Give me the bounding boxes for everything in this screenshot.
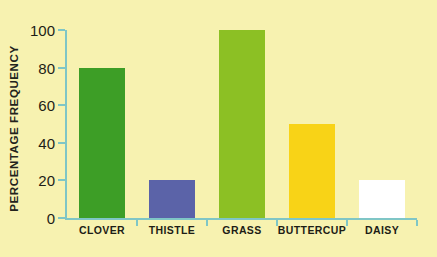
x-axis-label-clover: CLOVER	[79, 224, 125, 236]
y-axis-tick	[58, 29, 65, 31]
y-axis-tick	[58, 179, 65, 181]
y-axis-tick-label: 60	[38, 97, 55, 114]
bars-layer	[67, 30, 417, 218]
bar-daisy	[359, 180, 405, 218]
bar-grass	[219, 30, 265, 218]
x-axis-label-grass: GRASS	[222, 224, 261, 236]
x-axis-label-daisy: DAISY	[365, 224, 399, 236]
y-axis-tick	[58, 217, 65, 219]
y-axis-tick-label: 0	[47, 210, 55, 227]
x-axis-label-buttercup: BUTTERCUP	[278, 224, 346, 236]
y-axis-title: PERCENTAGE FREQUENCY	[0, 0, 28, 257]
x-axis-category-labels: CLOVERTHISTLEGRASSBUTTERCUPDAISY	[67, 224, 417, 242]
y-axis-tick	[58, 104, 65, 106]
y-axis-tick	[58, 67, 65, 69]
y-axis-tick	[58, 142, 65, 144]
bar-buttercup	[289, 124, 335, 218]
x-axis-line	[65, 218, 417, 220]
plot-area: 020406080100	[67, 30, 417, 218]
bar-chart-figure: PERCENTAGE FREQUENCY 020406080100 CLOVER…	[0, 0, 437, 257]
x-axis-label-thistle: THISTLE	[149, 224, 196, 236]
y-axis-tick-label: 80	[38, 59, 55, 76]
bar-clover	[79, 68, 125, 218]
y-axis-tick-label: 40	[38, 134, 55, 151]
y-axis-tick-label: 20	[38, 172, 55, 189]
y-axis-tick-label: 100	[30, 22, 55, 39]
bar-thistle	[149, 180, 195, 218]
